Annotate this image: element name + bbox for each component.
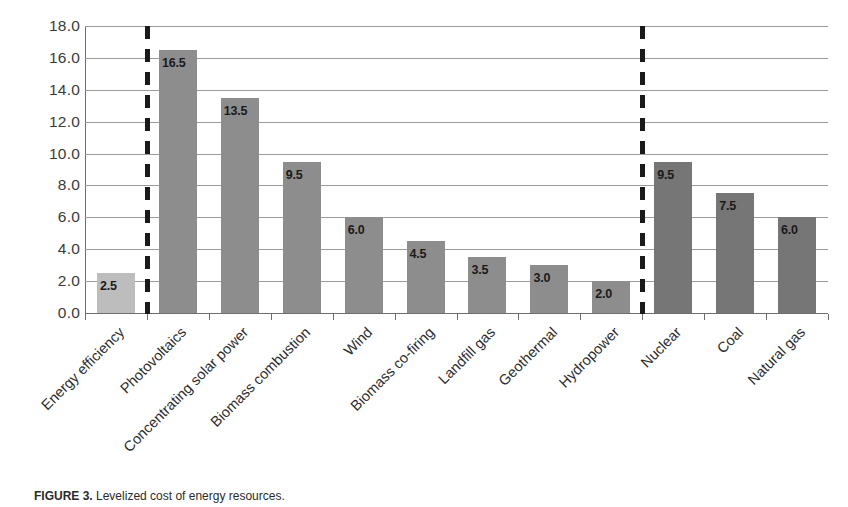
y-axis-tick-labels: 18.016.014.012.010.08.06.04.02.00.0	[22, 26, 80, 313]
y-tick-label: 6.0	[28, 208, 80, 226]
bar[interactable]: 6.0	[345, 26, 383, 313]
plot-area: 2.516.513.59.56.04.53.53.02.09.57.56.0	[85, 26, 828, 313]
bar-value-label: 6.0	[348, 223, 365, 237]
bar[interactable]: 3.5	[468, 26, 506, 313]
bar-value-label: 9.5	[657, 168, 674, 182]
bar[interactable]: 9.5	[283, 26, 321, 313]
y-tick-label: 8.0	[28, 176, 80, 194]
x-tick	[147, 314, 148, 320]
y-tick-label: 18.0	[28, 17, 80, 35]
bar-rect	[159, 50, 197, 313]
bar[interactable]: 13.5	[221, 26, 259, 313]
x-tick	[395, 314, 396, 320]
bar-rect	[283, 162, 321, 313]
bar[interactable]: 3.0	[530, 26, 568, 313]
x-tick	[457, 314, 458, 320]
y-tick-label: 0.0	[28, 304, 80, 322]
x-tick	[85, 314, 86, 320]
bar[interactable]: 2.5	[97, 26, 135, 313]
x-tick	[580, 314, 581, 320]
bar[interactable]: 4.5	[407, 26, 445, 313]
bar[interactable]: 16.5	[159, 26, 197, 313]
y-tick-label: 16.0	[28, 49, 80, 67]
bar-value-label: 16.5	[162, 56, 186, 70]
y-tick-label: 2.0	[28, 272, 80, 290]
bar-value-label: 7.5	[719, 199, 736, 213]
x-tick	[333, 314, 334, 320]
y-tick-label: 4.0	[28, 240, 80, 258]
x-tick	[209, 314, 210, 320]
x-tick	[518, 314, 519, 320]
y-tick-label: 10.0	[28, 145, 80, 163]
bar-rect	[654, 162, 692, 313]
bar-value-label: 9.5	[286, 168, 303, 182]
x-tick	[271, 314, 272, 320]
bar-value-label: 6.0	[781, 223, 798, 237]
x-tick	[642, 314, 643, 320]
bar-value-label: 3.5	[471, 263, 488, 277]
bar[interactable]: 6.0	[778, 26, 816, 313]
bar-rect	[221, 98, 259, 313]
bar[interactable]: 7.5	[716, 26, 754, 313]
bar[interactable]: 2.0	[592, 26, 630, 313]
bar-value-label: 4.5	[410, 247, 427, 261]
group-divider-right	[640, 26, 645, 314]
bar-value-label: 2.0	[595, 287, 612, 301]
x-tick	[704, 314, 705, 320]
bar-value-label: 3.0	[533, 271, 550, 285]
y-tick-label: 12.0	[28, 113, 80, 131]
bar[interactable]: 9.5	[654, 26, 692, 313]
y-tick-label: 14.0	[28, 81, 80, 99]
caption-text: Levelized cost of energy resources.	[93, 489, 285, 503]
figure-container: 18.016.014.012.010.08.06.04.02.00.0 2.51…	[0, 0, 848, 507]
bar-value-label: 2.5	[100, 279, 117, 293]
caption-prefix: FIGURE 3.	[34, 489, 93, 503]
bar-value-label: 13.5	[224, 104, 248, 118]
group-divider-left	[145, 26, 150, 314]
x-tick	[766, 314, 767, 320]
x-tick	[828, 314, 829, 320]
figure-caption: FIGURE 3. Levelized cost of energy resou…	[34, 489, 824, 503]
